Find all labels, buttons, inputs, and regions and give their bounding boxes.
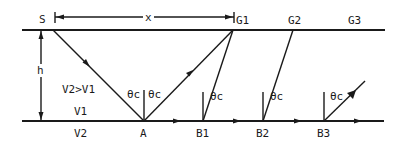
source-label: S xyxy=(39,13,46,26)
geophone-g1-label: G1 xyxy=(236,14,249,27)
ray-arrow-icon xyxy=(186,70,193,77)
critical-angle-label: θc xyxy=(210,90,223,103)
incident-ray xyxy=(53,30,144,121)
velocity-relation-label: V2>V1 xyxy=(62,83,95,96)
refraction-diagram: x S h V2>V1 V1 V2 θc θc A θc B1 θc B2 θc… xyxy=(0,0,405,147)
arrow-up-icon xyxy=(39,31,44,39)
b3-label: B3 xyxy=(317,127,330,140)
point-a-label: A xyxy=(140,127,147,140)
critical-angle-label: θc xyxy=(148,88,161,101)
b1-label: B1 xyxy=(196,127,209,140)
geophone-g2-label: G2 xyxy=(288,14,301,27)
offset-dimension: x xyxy=(55,11,234,24)
refracted-ray-b1 xyxy=(203,30,233,121)
offset-label: x xyxy=(145,11,152,24)
head-wave-arrow-icon xyxy=(354,119,362,124)
thickness-dimension: h xyxy=(37,31,44,120)
arrow-down-icon xyxy=(39,112,44,120)
head-wave-arrow-icon xyxy=(173,119,181,124)
thickness-label: h xyxy=(37,64,44,77)
geophone-g3-label: G3 xyxy=(348,14,361,27)
refracted-ray-b2 xyxy=(263,30,293,121)
critical-angle-label: θc xyxy=(330,90,343,103)
head-wave-arrow-icon xyxy=(294,119,302,124)
head-wave-arrow-icon xyxy=(233,119,241,124)
arrow-right-icon xyxy=(225,15,233,20)
v2-label: V2 xyxy=(74,127,87,140)
arrow-left-icon xyxy=(56,15,64,20)
b2-label: B2 xyxy=(256,127,269,140)
critical-angle-label: θc xyxy=(270,90,283,103)
critical-angle-label: θc xyxy=(127,88,140,101)
v1-label: V1 xyxy=(74,105,87,118)
